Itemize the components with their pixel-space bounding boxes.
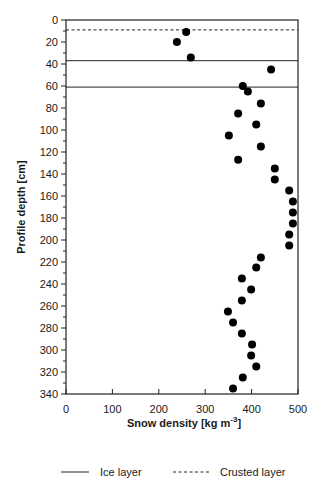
x-tick-label: 500 — [289, 403, 307, 415]
x-tick-label: 300 — [196, 403, 214, 415]
x-tick-label: 0 — [63, 403, 69, 415]
data-point — [257, 254, 265, 262]
data-point — [257, 100, 265, 108]
y-tick-label: 160 — [40, 190, 58, 202]
plot-frame — [66, 20, 298, 394]
y-tick-label: 340 — [40, 388, 58, 400]
data-point — [252, 363, 260, 371]
legend: Ice layer Crusted layer — [61, 466, 286, 478]
reference-lines — [66, 30, 298, 87]
data-point — [285, 231, 293, 239]
x-axis: 0100200300400500 — [63, 389, 307, 415]
data-point — [248, 341, 256, 349]
y-tick-label: 120 — [40, 146, 58, 158]
data-point — [267, 66, 275, 74]
data-point — [229, 319, 237, 327]
data-point — [225, 132, 233, 140]
data-point — [289, 198, 297, 206]
data-point — [229, 385, 237, 393]
y-tick-label: 200 — [40, 234, 58, 246]
y-tick-label: 100 — [40, 124, 58, 136]
data-point — [271, 176, 279, 184]
data-point — [247, 286, 255, 294]
data-point — [289, 220, 297, 228]
data-point — [271, 165, 279, 173]
y-tick-label: 240 — [40, 278, 58, 290]
x-axis-title: Snow density [kg m-3] — [127, 415, 241, 429]
data-point — [234, 110, 242, 118]
legend-crusted-label: Crusted layer — [220, 466, 286, 478]
data-point — [173, 38, 181, 46]
y-tick-label: 80 — [46, 102, 58, 114]
data-points — [173, 28, 297, 392]
y-tick-label: 0 — [52, 14, 58, 26]
data-point — [238, 275, 246, 283]
y-tick-label: 40 — [46, 58, 58, 70]
y-axis: 0204060801001201401601802002202402602803… — [40, 14, 66, 400]
data-point — [238, 297, 246, 305]
y-tick-label: 300 — [40, 344, 58, 356]
legend-ice-label: Ice layer — [100, 466, 142, 478]
x-tick-label: 200 — [150, 403, 168, 415]
y-tick-label: 280 — [40, 322, 58, 334]
data-point — [285, 187, 293, 195]
data-point — [252, 264, 260, 272]
y-tick-label: 140 — [40, 168, 58, 180]
data-point — [224, 308, 232, 316]
snow-density-chart: 0204060801001201401601802002202402602803… — [0, 0, 323, 492]
y-tick-label: 60 — [46, 80, 58, 92]
y-tick-label: 220 — [40, 256, 58, 268]
y-axis-title: Profile depth [cm] — [15, 160, 27, 254]
y-tick-label: 260 — [40, 300, 58, 312]
data-point — [244, 88, 252, 96]
data-point — [234, 156, 242, 164]
data-point — [182, 28, 190, 36]
data-point — [257, 143, 265, 151]
data-point — [238, 330, 246, 338]
data-point — [252, 121, 260, 129]
data-point — [247, 352, 255, 360]
y-tick-label: 20 — [46, 36, 58, 48]
y-tick-label: 180 — [40, 212, 58, 224]
x-tick-label: 400 — [242, 403, 260, 415]
y-tick-label: 320 — [40, 366, 58, 378]
x-tick-label: 100 — [103, 403, 121, 415]
data-point — [289, 209, 297, 217]
data-point — [187, 53, 195, 61]
data-point — [285, 242, 293, 250]
data-point — [239, 374, 247, 382]
